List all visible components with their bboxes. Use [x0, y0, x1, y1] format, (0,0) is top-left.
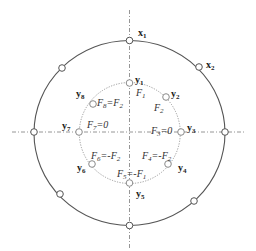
label-F2: F2	[153, 102, 164, 115]
label-y6: y6	[77, 162, 86, 175]
outer-node-top	[126, 37, 133, 44]
outer-node-left	[31, 129, 38, 136]
ring-force-diagram: x1 x2 y1 y2 y3 y4 y5 y6 y7 y8 F1 F2 F3=0…	[0, 0, 256, 251]
label-F3: F3=0	[150, 125, 172, 138]
label-y4: y4	[178, 162, 187, 175]
inner-node-y5	[126, 180, 133, 187]
label-x2: x2	[206, 59, 215, 72]
label-y7: y7	[62, 120, 71, 133]
inner-node-y1	[126, 80, 133, 87]
outer-node-bottom-right	[191, 198, 198, 205]
label-F1: F1	[135, 87, 146, 100]
inner-node-y6	[89, 161, 96, 168]
inner-node-y2	[163, 94, 170, 101]
inner-node-y7	[76, 129, 83, 136]
label-x1: x1	[138, 27, 147, 40]
label-y3: y3	[187, 122, 196, 135]
outer-node-right	[222, 129, 229, 136]
outer-node-bottom-left	[57, 191, 64, 198]
inner-node-y8	[90, 101, 97, 108]
inner-node-y3	[178, 129, 185, 136]
label-F5: F5=-F1	[116, 168, 146, 181]
outer-node-bottom	[126, 222, 133, 229]
label-y5: y5	[136, 188, 145, 201]
outer-node-top-right	[196, 64, 203, 71]
label-y2: y2	[171, 88, 180, 101]
label-F4: F4=-F2	[141, 150, 172, 163]
label-y8: y8	[76, 88, 85, 101]
label-F7: F7=0	[86, 119, 108, 132]
label-F8: F8=F2	[96, 97, 123, 110]
label-F6: F6=-F2	[90, 150, 121, 163]
outer-node-top-left	[59, 65, 66, 72]
label-y1: y1	[135, 74, 144, 87]
